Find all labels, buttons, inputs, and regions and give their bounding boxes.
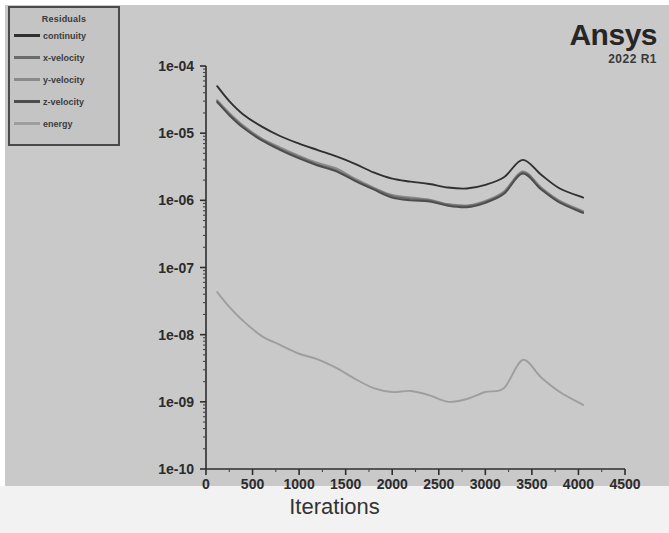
residuals-plot-window: Residuals continuityx-velocityy-velocity…	[0, 0, 669, 533]
y-tick-label: 1e-05	[136, 125, 194, 141]
y-tick-label: 1e-06	[136, 192, 194, 208]
legend-color-swatch	[14, 56, 40, 59]
y-tick-label: 1e-04	[136, 58, 194, 74]
legend-item-label: x-velocity	[43, 53, 85, 63]
legend-color-swatch	[14, 78, 40, 81]
legend-color-swatch	[14, 122, 40, 125]
x-tick-label: 3000	[461, 476, 509, 492]
legend-item-label: energy	[43, 119, 73, 129]
legend-items: continuityx-velocityy-velocityz-velocity…	[10, 25, 118, 134]
x-tick-label: 500	[229, 476, 277, 492]
series-line-y-velocity	[217, 100, 583, 211]
x-tick-label: 1000	[275, 476, 323, 492]
legend-color-swatch	[14, 100, 40, 103]
brand-version: 2022 R1	[569, 52, 657, 66]
y-tick-label: 1e-10	[136, 461, 194, 477]
x-tick-label: 4500	[601, 476, 649, 492]
legend-item[interactable]: x-velocity	[10, 47, 118, 68]
legend-item[interactable]: energy	[10, 113, 118, 134]
y-tick-label: 1e-08	[136, 327, 194, 343]
legend-item-label: y-velocity	[43, 75, 85, 85]
brand-name: Ansys	[569, 20, 657, 50]
legend-item-label: z-velocity	[43, 97, 84, 107]
x-tick-label: 2000	[368, 476, 416, 492]
series-line-continuity	[217, 86, 583, 197]
legend-title: Residuals	[10, 14, 118, 24]
x-tick-label: 3500	[508, 476, 556, 492]
ansys-logo: Ansys 2022 R1	[569, 20, 657, 66]
legend-item[interactable]: z-velocity	[10, 91, 118, 112]
y-tick-label: 1e-07	[136, 260, 194, 276]
x-tick-label: 1500	[322, 476, 370, 492]
y-tick-label: 1e-09	[136, 394, 194, 410]
x-tick-label: 2500	[415, 476, 463, 492]
series-line-x-velocity	[217, 101, 583, 212]
legend-item[interactable]: continuity	[10, 25, 118, 46]
x-tick-label: 4000	[554, 476, 602, 492]
x-tick-label: 0	[182, 476, 230, 492]
legend-item-label: continuity	[43, 31, 86, 41]
legend-color-swatch	[14, 34, 40, 37]
x-axis-title: Iterations	[0, 494, 669, 520]
series-line-energy	[217, 292, 583, 405]
legend-box: Residuals continuityx-velocityy-velocity…	[8, 6, 120, 146]
legend-item[interactable]: y-velocity	[10, 69, 118, 90]
